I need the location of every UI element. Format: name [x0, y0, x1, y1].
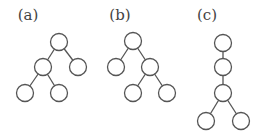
tree-node [233, 113, 250, 130]
panel-b-nodes [108, 33, 176, 102]
tree-node [70, 59, 87, 76]
tree-node [215, 35, 232, 52]
panel-a: (a) [17, 6, 87, 102]
tree-node [108, 59, 125, 76]
tree-node [17, 85, 34, 102]
tree-node [125, 33, 142, 50]
panel-c-edges [206, 43, 241, 121]
tree-diagram-canvas: (a) (b) (c) [0, 0, 253, 134]
tree-node [215, 85, 232, 102]
panel-a-label: (a) [18, 6, 39, 24]
tree-node [198, 113, 215, 130]
panel-b-label: (b) [109, 6, 130, 24]
panel-c-label: (c) [197, 6, 217, 24]
tree-node [125, 85, 142, 102]
tree-node [159, 85, 176, 102]
tree-node [215, 59, 232, 76]
tree-node [35, 59, 52, 76]
panel-c: (c) [197, 6, 250, 130]
tree-node [51, 34, 68, 51]
tree-node [142, 59, 159, 76]
tree-node [51, 85, 68, 102]
panel-b: (b) [108, 6, 176, 102]
panel-a-nodes [17, 34, 87, 102]
